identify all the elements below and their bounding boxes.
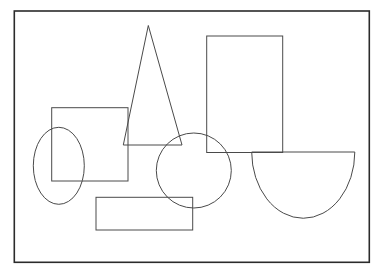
shape-triangle — [123, 26, 182, 146]
shape-wide-rectangle — [96, 197, 193, 230]
shape-circle — [156, 133, 231, 208]
shape-semicircle — [252, 152, 355, 218]
shape-square — [52, 108, 128, 181]
outer-border-frame — [14, 11, 369, 262]
shape-ellipse — [33, 127, 84, 204]
shape-tall-rectangle — [207, 36, 283, 153]
drawing-canvas — [0, 0, 377, 269]
shape-svg — [0, 0, 377, 269]
